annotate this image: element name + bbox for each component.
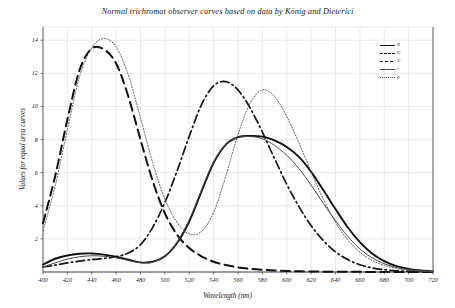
- axis-ticks: [41, 40, 434, 274]
- legend-swatch-R: [380, 45, 395, 48]
- grid-lines: [43, 27, 433, 272]
- legend-item-r: r: [380, 66, 430, 74]
- legend-swatch-V: [380, 61, 393, 64]
- legend-label-r: r: [397, 65, 399, 73]
- legend-item-G: G: [380, 50, 430, 58]
- legend-label-R: R: [397, 41, 400, 49]
- legend-item-R: R: [380, 42, 430, 50]
- chart-figure: Normal trichromat observer curves based …: [0, 0, 455, 308]
- legend-label-G: G: [397, 49, 401, 57]
- legend-swatch-r: [380, 69, 395, 72]
- y-tick-10: 10: [22, 102, 38, 109]
- y-tick-4: 4: [22, 202, 38, 209]
- y-tick-6: 6: [22, 169, 38, 176]
- legend-swatch-g: [380, 77, 395, 80]
- legend-item-V: V: [380, 58, 430, 66]
- y-axis-label: Values for equal area curves: [19, 79, 27, 219]
- x-axis-label: Wavelength (nm): [0, 292, 455, 300]
- y-tick-2: 2: [22, 235, 38, 242]
- x-tick-720: 720: [418, 276, 448, 283]
- y-tick-14: 14: [22, 36, 38, 43]
- y-tick-8: 8: [22, 136, 38, 143]
- chart-legend: RGVrg: [380, 42, 430, 82]
- legend-swatch-G: [380, 53, 395, 56]
- y-tick-12: 12: [22, 69, 38, 76]
- legend-label-g: g: [397, 73, 400, 81]
- legend-item-g: g: [380, 74, 430, 82]
- legend-label-V: V: [397, 57, 400, 65]
